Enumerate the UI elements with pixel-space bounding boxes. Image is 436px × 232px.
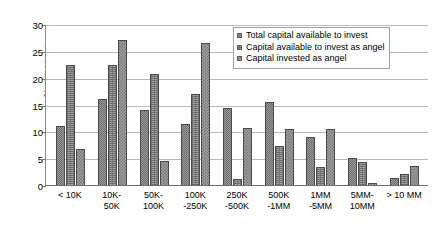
y-axis-tick-label: 15 [32, 100, 43, 111]
x-axis-tick-label: < 10K [49, 190, 91, 212]
y-axis-tick-label: 20 [32, 73, 43, 84]
legend-label: Total capital available to invest [246, 30, 368, 42]
legend-item: Capital invested as angel [237, 53, 385, 65]
bar-group [133, 25, 175, 185]
bar [150, 74, 159, 185]
x-axis-tick-label: 50K- 100K [133, 190, 175, 212]
bar [410, 166, 419, 185]
bar [233, 179, 242, 185]
bar [118, 40, 127, 185]
x-axis-tick-label: 1MM -5MM [300, 190, 342, 212]
legend-label: Capital invested as angel [246, 53, 347, 65]
bar [56, 126, 65, 185]
bar [390, 178, 399, 185]
x-axis-tick-label: 100K -250K [174, 190, 216, 212]
bar [285, 129, 294, 185]
bar [326, 129, 335, 185]
legend-label: Capital available to invest as angel [246, 42, 385, 54]
x-axis-tick-label: > 10 MM [383, 190, 425, 212]
bar-chart: % responses 051015202530 < 10K10K- 50K50… [0, 0, 436, 232]
legend-swatch-icon [237, 33, 242, 38]
bar [140, 110, 149, 185]
y-axis-tick-label: 0 [38, 181, 43, 192]
bar [368, 183, 377, 185]
bar-group [383, 25, 425, 185]
x-axis-tick-label: 250K -500K [216, 190, 258, 212]
bar [98, 99, 107, 185]
x-axis-tick-label: 10K- 50K [91, 190, 133, 212]
bar-group [50, 25, 92, 185]
bar-group [92, 25, 134, 185]
bar [265, 102, 274, 185]
bar [306, 137, 315, 185]
legend-item: Capital available to invest as angel [237, 42, 385, 54]
bar [191, 94, 200, 185]
legend-swatch-icon [237, 45, 242, 50]
y-axis-tick-label: 10 [32, 127, 43, 138]
x-axis-tick-label: 500K -1MM [258, 190, 300, 212]
x-axis-tick-labels: < 10K10K- 50K50K- 100K100K -250K250K -50… [45, 190, 428, 212]
y-axis-tick-label: 30 [32, 20, 43, 31]
bar [66, 65, 75, 185]
bar [181, 124, 190, 185]
y-axis-tick-label: 25 [32, 46, 43, 57]
bar [223, 108, 232, 185]
bar [160, 161, 169, 185]
bar-group [175, 25, 217, 185]
x-axis-tick-label: 5MM- 10MM [341, 190, 383, 212]
bar [201, 43, 210, 185]
bar [243, 128, 252, 185]
bar [275, 146, 284, 185]
y-axis-tick-label: 5 [38, 154, 43, 165]
bar [358, 162, 367, 185]
bar [316, 167, 325, 185]
bar [108, 65, 117, 185]
legend: Total capital available to investCapital… [233, 27, 390, 69]
bar [400, 174, 409, 185]
bar [76, 149, 85, 185]
bar [348, 158, 357, 185]
legend-swatch-icon [237, 56, 242, 61]
legend-item: Total capital available to invest [237, 30, 385, 42]
